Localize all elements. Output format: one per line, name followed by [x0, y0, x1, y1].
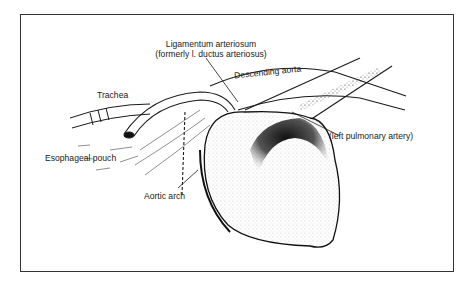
- label-trachea: Trachea: [97, 91, 128, 100]
- label-left-pulmonary-artery: (left pulmonary artery): [329, 132, 413, 141]
- label-aortic-arch: Aortic arch: [144, 192, 185, 201]
- label-ligamentum-arteriosum: Ligamentum arteriosum (formerly l. ductu…: [150, 40, 272, 58]
- esophageal-pouch-shape: [78, 110, 210, 175]
- label-esophageal-pouch: Esophageal pouch: [45, 154, 116, 163]
- trachea-shape: [70, 104, 150, 128]
- heart-shape: [200, 112, 340, 248]
- label-ligamentum-line1: Ligamentum arteriosum: [150, 40, 272, 49]
- label-ligamentum-line2: (formerly l. ductus arteriosus): [150, 50, 272, 59]
